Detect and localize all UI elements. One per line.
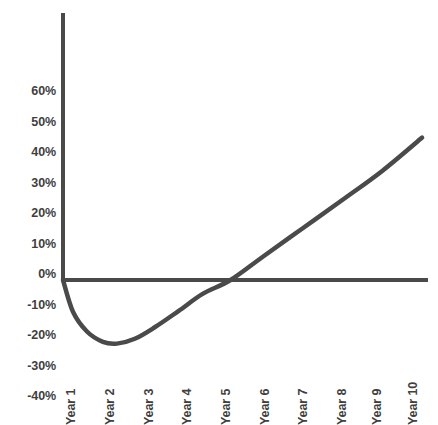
y-tick-label-20: 20%: [4, 207, 56, 220]
y-tick-label-40: 40%: [4, 146, 56, 159]
y-tick-label-neg20: -20%: [4, 329, 56, 342]
y-tick-label-50: 50%: [4, 116, 56, 129]
x-tick-label-year-2: Year 2: [104, 389, 117, 425]
y-tick-label-10: 10%: [4, 238, 56, 251]
x-tick-label-year-3: Year 3: [143, 389, 156, 425]
y-tick-label-0: 0%: [4, 268, 56, 281]
y-tick-label-30: 30%: [4, 177, 56, 190]
x-tick-label-year-4: Year 4: [181, 389, 194, 425]
x-tick-label-year-7: Year 7: [297, 389, 310, 425]
y-tick-label-neg40: -40%: [4, 390, 56, 403]
y-tick-label-neg10: -10%: [4, 299, 56, 312]
x-tick-label-year-8: Year 8: [336, 389, 349, 425]
series-line-cumulative-return: [63, 138, 422, 344]
x-tick-label-year-9: Year 9: [371, 389, 384, 425]
x-tick-label-year-6: Year 6: [259, 389, 272, 425]
y-tick-label-neg30: -30%: [4, 360, 56, 373]
x-tick-label-year-1: Year 1: [65, 389, 78, 425]
x-tick-label-year-5: Year 5: [220, 389, 233, 425]
x-tick-label-year-10: Year 10: [407, 382, 420, 425]
y-tick-label-60: 60%: [4, 85, 56, 98]
